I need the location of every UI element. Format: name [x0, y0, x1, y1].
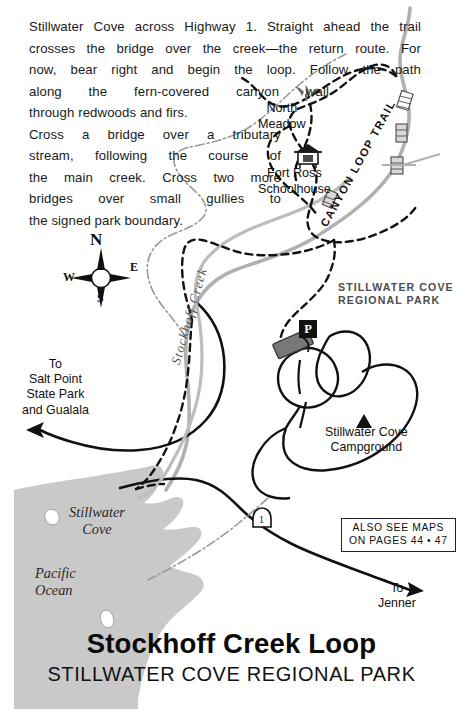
north-meadow-line-2: Meadow — [258, 117, 306, 133]
map-title: Stockhoff Creek Loop — [0, 628, 463, 660]
intro-line-9: bridges over small gullies to — [29, 188, 281, 210]
intro-line-10: the signed park boundary. — [29, 210, 281, 232]
campground-loop-road-north — [278, 348, 338, 408]
highway-1-shield-label: 1 — [253, 511, 270, 528]
park-name-line-2: REGIONAL PARK — [338, 294, 454, 307]
pacific-ocean-line-1: Pacific — [35, 565, 76, 582]
park-name-line-1: STILLWATER COVE — [338, 281, 454, 294]
label-to-jenner: To Jenner — [378, 581, 416, 611]
to-salt-point-line-3: State Park — [22, 387, 89, 402]
compass-west-label: W — [63, 270, 75, 285]
map-subtitle: STILLWATER COVE REGIONAL PARK — [0, 663, 463, 686]
intro-line-7: stream, following the course of — [29, 145, 281, 167]
intro-line-2: crosses the bridge over the creek—the re… — [29, 38, 421, 60]
to-jenner-line-1: To — [378, 581, 416, 596]
label-to-salt-point: To Salt Point State Park and Gualala — [22, 357, 89, 418]
map-page: Stillwater Cove across Highway 1. Straig… — [0, 0, 463, 709]
to-salt-point-line-2: Salt Point — [22, 372, 89, 387]
parking-icon: P — [299, 320, 317, 338]
compass-north-label: N — [90, 230, 102, 250]
campground-line-1: Stillwater Cove — [325, 425, 408, 440]
campground-line-2: Campground — [325, 440, 408, 455]
pacific-ocean-line-2: Ocean — [35, 582, 76, 599]
intro-line-5: through redwoods and firs. — [29, 102, 281, 124]
label-regional-park: STILLWATER COVE REGIONAL PARK — [338, 281, 454, 307]
see-maps-line-1: ALSO SEE MAPS — [349, 522, 448, 535]
fort-ross-line-2: Schoolhouse — [258, 182, 331, 198]
stillwater-cove-line-1: Stillwater — [69, 504, 125, 521]
campground-access-spur — [299, 360, 307, 428]
intro-line-6: Cross a bridge over a tributary — [29, 124, 281, 146]
intro-paragraph: Stillwater Cove across Highway 1. Straig… — [29, 16, 421, 231]
compass-east-label: E — [130, 260, 138, 275]
compass-south-label: S — [97, 291, 104, 306]
campground-loop-road-northeast — [316, 332, 370, 397]
intro-line-8: the main creek. Cross two more — [29, 167, 281, 189]
to-salt-point-line-4: and Gualala — [22, 403, 89, 418]
north-meadow-line-1: North — [258, 101, 306, 117]
intro-line-1: Stillwater Cove across Highway 1. Straig… — [29, 16, 421, 38]
label-fort-ross-schoolhouse: Fort Ross Schoolhouse — [258, 166, 331, 197]
to-salt-point-line-1: To — [22, 357, 89, 372]
fort-ross-line-1: Fort Ross — [258, 166, 331, 182]
intro-line-4: along the fern-covered canyon wall — [29, 81, 329, 103]
label-stillwater-cove-water: Stillwater Cove — [69, 504, 125, 538]
see-maps-line-2: ON PAGES 44 • 47 — [349, 535, 448, 548]
label-north-meadow: North Meadow — [258, 101, 306, 132]
label-stillwater-cove-campground: Stillwater Cove Campground — [325, 425, 408, 455]
stillwater-cove-line-2: Cove — [69, 521, 125, 538]
label-pacific-ocean: Pacific Ocean — [35, 565, 76, 599]
compass-rose: N E S W — [63, 232, 149, 316]
to-jenner-line-2: Jenner — [378, 596, 416, 611]
also-see-maps-box: ALSO SEE MAPS ON PAGES 44 • 47 — [341, 518, 456, 552]
intro-line-3: now, bear right and begin the loop. Foll… — [29, 59, 421, 81]
